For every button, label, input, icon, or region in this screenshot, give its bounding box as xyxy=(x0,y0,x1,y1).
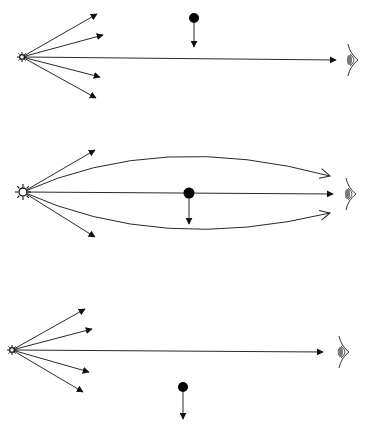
ray-arrow xyxy=(12,329,92,350)
ray-arrow xyxy=(12,350,83,392)
star-sun-icon xyxy=(7,345,17,355)
star-sun-icon xyxy=(15,184,31,200)
mass-dot-icon xyxy=(184,188,195,225)
ray-arrow xyxy=(12,350,89,372)
ray-arrow xyxy=(23,150,95,192)
light-rays xyxy=(12,309,323,392)
ray-arrow xyxy=(12,309,85,350)
ray-arrow xyxy=(22,57,100,77)
line-of-sight-ray xyxy=(12,350,323,352)
mass-dot-icon xyxy=(189,13,199,47)
ray-arrow xyxy=(22,35,103,57)
ray-arrow xyxy=(22,57,96,98)
line-of-sight-ray xyxy=(23,192,333,194)
panel-2 xyxy=(15,150,356,237)
mass-dot-icon xyxy=(178,382,188,419)
bent-ray-upper xyxy=(23,156,330,192)
eye-icon xyxy=(338,336,349,368)
light-rays xyxy=(23,150,333,237)
ray-arrow xyxy=(22,14,97,57)
eye-icon xyxy=(345,178,356,210)
eye-icon xyxy=(347,44,358,76)
panel-1 xyxy=(17,13,358,98)
bent-ray-lower xyxy=(23,192,330,229)
panel-3 xyxy=(7,309,349,419)
diagram-canvas xyxy=(0,0,377,432)
line-of-sight-ray xyxy=(22,57,336,60)
star-sun-icon xyxy=(17,52,27,62)
light-rays xyxy=(22,14,336,98)
